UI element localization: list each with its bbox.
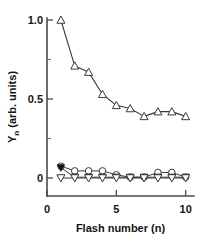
data-series-layer <box>57 16 190 182</box>
data-point-circle-open <box>85 168 92 175</box>
figure-container: 00.51.0 0510 Flash number (n) Yn (arb. u… <box>0 0 210 247</box>
y-axis-title: Yn (arb. units) <box>6 71 21 143</box>
data-point-triangle-up-open <box>98 90 106 97</box>
y-axis-title-rest: (arb. units) <box>6 71 18 131</box>
y-tick-label: 1.0 <box>28 14 43 26</box>
data-point-circle-open <box>71 168 78 175</box>
data-point-triangle-up-open <box>71 62 79 69</box>
y-axis-tick-labels: 00.51.0 <box>28 14 43 184</box>
x-tick-label: 10 <box>180 203 192 215</box>
x-axis-ticks <box>47 190 186 196</box>
data-point-triangle-up-open <box>140 112 148 119</box>
x-tick-label: 0 <box>44 203 50 215</box>
data-point-circle-open <box>99 168 106 175</box>
x-axis-tick-labels: 0510 <box>44 203 192 215</box>
series-upper-open-triangle-up <box>57 16 190 120</box>
y-axis-ticks <box>47 20 53 178</box>
x-axis-title: Flash number (n) <box>76 222 166 234</box>
data-point-triangle-up-open <box>57 16 65 23</box>
x-tick-label: 5 <box>113 203 119 215</box>
series-polyline <box>61 166 186 177</box>
data-point-triangle-up-open <box>182 112 190 119</box>
series-polyline <box>61 20 186 116</box>
y-tick-label: 0 <box>37 172 43 184</box>
data-point-triangle-up-open <box>85 68 93 75</box>
y-tick-label: 0.5 <box>28 93 43 105</box>
line-chart: 00.51.0 0510 Flash number (n) Yn (arb. u… <box>0 0 210 247</box>
